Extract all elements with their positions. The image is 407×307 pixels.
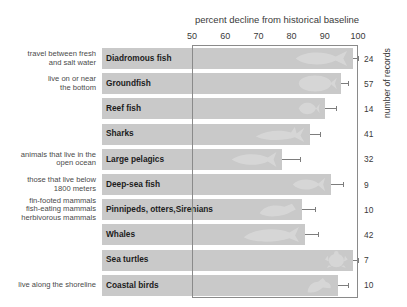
category-label: Pinnipeds, otters,Sirenians [106, 197, 213, 222]
shark-icon [253, 125, 306, 144]
category-label: Sea turtles [106, 248, 148, 273]
error-bar-cap [348, 81, 349, 86]
error-bar-cap [336, 106, 337, 111]
category-label-line: Coastal birds [106, 281, 159, 291]
annotation-line: live along the shoreline [0, 281, 96, 290]
category-label-line: Pinnipeds, otters, [106, 205, 176, 214]
record-count: 10 [364, 273, 373, 298]
category-label-line: Reef fish [106, 104, 141, 114]
chart-row: Sharks41 [0, 122, 407, 147]
sea-turtle-icon [324, 251, 349, 270]
x-tick-90: 90 [320, 31, 330, 41]
deep-sea-fish-icon [289, 175, 327, 194]
category-label-line: Groundfish [106, 79, 151, 89]
row-annotation: live along the shoreline [0, 281, 96, 290]
annotation-line: 1800 meters [0, 185, 96, 194]
error-bar [302, 209, 315, 210]
record-count: 57 [364, 71, 373, 96]
category-label-line: Large pelagics [106, 155, 164, 165]
category-label-line: Sea turtles [106, 255, 148, 265]
category-label-line: Whales [106, 230, 135, 240]
record-count: 42 [364, 222, 373, 247]
row-annotation: those that live below1800 meters [0, 176, 96, 193]
x-tick-100: 100 [350, 31, 365, 41]
x-tick-50: 50 [187, 31, 197, 41]
chart-row: Whales42 [0, 222, 407, 247]
x-tick-70: 70 [253, 31, 263, 41]
record-count: 14 [364, 96, 373, 121]
error-bar [341, 83, 348, 84]
chart-row: Reef fish14 [0, 96, 407, 121]
error-bar-cap [318, 232, 319, 237]
row-annotation: live on or nearthe bottom [0, 75, 96, 92]
error-bar-cap [358, 56, 359, 61]
chart-row: Sea turtles7 [0, 248, 407, 273]
error-bar-cap [343, 182, 344, 187]
error-bar [282, 159, 300, 160]
x-tick-80: 80 [287, 31, 297, 41]
category-label: Diadromous fish [106, 46, 171, 71]
error-bar [331, 184, 343, 185]
category-label: Groundfish [106, 71, 151, 96]
chart-container: percent decline from historical baseline… [0, 0, 407, 307]
annotation-line: open ocean [0, 159, 96, 168]
record-count: 7 [364, 248, 369, 273]
category-label: Deep-sea fish [106, 172, 160, 197]
category-label-line: Sharks [106, 129, 134, 139]
chart-row: live along the shorelineCoastal birds10 [0, 273, 407, 298]
category-label-line: Diadromous fish [106, 54, 171, 64]
error-bar [310, 134, 320, 135]
record-count: 32 [364, 147, 373, 172]
error-bar [305, 234, 318, 235]
diadromous-fish-icon [292, 49, 349, 68]
error-bar-cap [348, 283, 349, 288]
record-count: 9 [364, 172, 369, 197]
chart-row: fin-footed mammalsfish-eating mammalsher… [0, 197, 407, 222]
record-count: 10 [364, 197, 373, 222]
error-bar-cap [300, 157, 301, 162]
chart-row: animals that live in theopen oceanLarge … [0, 147, 407, 172]
error-bar-cap [358, 258, 359, 263]
category-label: Reef fish [106, 96, 141, 121]
chart-row: live on or nearthe bottomGroundfish57 [0, 71, 407, 96]
record-count: 24 [364, 46, 373, 71]
coastal-bird-icon [302, 276, 334, 295]
large-pelagic-fish-icon [228, 150, 277, 169]
row-annotation: animals that live in theopen ocean [0, 151, 96, 168]
category-label: Coastal birds [106, 273, 159, 298]
row-annotation: fin-footed mammalsfish-eating mammalsher… [0, 197, 96, 223]
annotation-line: and salt water [0, 59, 96, 68]
chart-axis-title: percent decline from historical baseline [192, 14, 362, 25]
reef-fish-icon [296, 99, 321, 118]
annotation-line: the bottom [0, 84, 96, 93]
category-label: Large pelagics [106, 147, 164, 172]
category-label: Whales [106, 222, 135, 247]
error-bar [338, 285, 348, 286]
chart-row: travel between freshand salt waterDiadro… [0, 46, 407, 71]
category-label-line: Deep-sea fish [106, 180, 160, 190]
error-bar [325, 108, 337, 109]
seal-icon [254, 200, 298, 219]
row-annotation: travel between freshand salt water [0, 50, 96, 67]
records-axis-label: number of records [382, 48, 392, 118]
category-label: Sharks [106, 122, 134, 147]
groundfish-icon [296, 74, 338, 93]
record-count: 41 [364, 122, 373, 147]
whale-icon [240, 225, 301, 244]
error-bar-cap [315, 207, 316, 212]
category-label-line: Sirenians [176, 205, 213, 214]
x-tick-60: 60 [220, 31, 230, 41]
chart-row: those that live below1800 metersDeep-sea… [0, 172, 407, 197]
error-bar-cap [320, 132, 321, 137]
